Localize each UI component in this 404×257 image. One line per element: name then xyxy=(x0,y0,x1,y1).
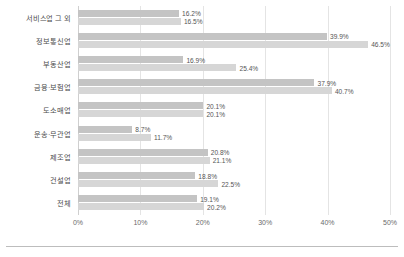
bar-row: 도소매업20.1%20.1% xyxy=(78,99,390,122)
bar-value-label: 40.7% xyxy=(335,87,354,94)
bar-series-1: 20.1% xyxy=(78,102,203,109)
bar-value-label: 19.1% xyxy=(200,195,219,202)
bar-series-1: 19.1% xyxy=(78,195,197,202)
gridline-50% xyxy=(390,6,391,215)
bar-series-2: 20.1% xyxy=(78,110,203,117)
x-tick-label: 40% xyxy=(321,219,335,226)
bar-row: 부동산업16.9%25.4% xyxy=(78,52,390,75)
bar-row: 운송·무관업8.7%11.7% xyxy=(78,122,390,145)
bar-row: 금융·보험업37.9%40.7% xyxy=(78,76,390,99)
bar-series-2: 25.4% xyxy=(78,64,236,71)
category-label: 금융·보험업 xyxy=(34,82,71,92)
category-label: 전체 xyxy=(57,198,71,208)
bar-series-2: 21.1% xyxy=(78,157,210,164)
bar-rows: 서비스업 그 외16.2%16.5%정보통신업39.9%46.5%부동산업16.… xyxy=(78,6,390,215)
category-label: 정보통신업 xyxy=(36,36,71,46)
x-tick-label: 0% xyxy=(73,219,83,226)
bar-row: 정보통신업39.9%46.5% xyxy=(78,29,390,52)
bar-row: 서비스업 그 외16.2%16.5% xyxy=(78,6,390,29)
bar-value-label: 20.1% xyxy=(206,102,225,109)
bar-value-label: 16.9% xyxy=(186,56,205,63)
bar-value-label: 11.7% xyxy=(154,134,172,141)
x-tick-label: 50% xyxy=(383,219,397,226)
bar-series-1: 16.2% xyxy=(78,10,179,17)
x-tick-label: 20% xyxy=(196,219,210,226)
bar-series-1: 37.9% xyxy=(78,79,314,86)
bar-series-2: 22.5% xyxy=(78,180,218,187)
bar-value-label: 25.4% xyxy=(239,64,258,71)
bar-chart: 서비스업 그 외16.2%16.5%정보통신업39.9%46.5%부동산업16.… xyxy=(0,0,404,257)
bar-value-label: 21.1% xyxy=(213,157,232,164)
bar-value-label: 39.9% xyxy=(330,33,349,40)
bar-row: 제조업20.8%21.1% xyxy=(78,145,390,168)
x-tick-label: 30% xyxy=(258,219,272,226)
bar-series-1: 16.9% xyxy=(78,56,183,63)
bar-series-2: 11.7% xyxy=(78,134,151,141)
bar-series-1: 18.8% xyxy=(78,172,195,179)
bar-value-label: 20.8% xyxy=(211,149,230,156)
bar-series-2: 40.7% xyxy=(78,87,332,94)
plot-area: 서비스업 그 외16.2%16.5%정보통신업39.9%46.5%부동산업16.… xyxy=(78,6,390,215)
category-label: 도소매업 xyxy=(43,105,71,115)
bottom-divider xyxy=(6,246,398,247)
bar-row: 전체19.1%20.2% xyxy=(78,192,390,215)
bar-value-label: 8.7% xyxy=(135,126,150,133)
bar-value-label: 20.2% xyxy=(207,203,226,210)
bar-value-label: 16.2% xyxy=(182,10,201,17)
bar-value-label: 46.5% xyxy=(371,41,390,48)
category-label: 부동산업 xyxy=(43,59,71,69)
category-label: 제조업 xyxy=(50,152,71,162)
x-tick-label: 10% xyxy=(133,219,147,226)
bar-value-label: 20.1% xyxy=(206,110,225,117)
category-label: 운송·무관업 xyxy=(34,129,71,139)
x-axis: 0%10%20%30%40%50% xyxy=(78,219,390,233)
bar-series-1: 39.9% xyxy=(78,33,327,40)
bar-series-2: 46.5% xyxy=(78,41,368,48)
bar-series-2: 20.2% xyxy=(78,203,204,210)
category-label: 건설업 xyxy=(50,175,71,185)
bar-value-label: 18.8% xyxy=(198,172,217,179)
bar-row: 건설업18.8%22.5% xyxy=(78,169,390,192)
bar-series-2: 16.5% xyxy=(78,18,181,25)
bar-series-1: 8.7% xyxy=(78,126,132,133)
bar-value-label: 37.9% xyxy=(317,79,336,86)
bar-series-1: 20.8% xyxy=(78,149,208,156)
bar-value-label: 22.5% xyxy=(221,180,240,187)
category-label: 서비스업 그 외 xyxy=(26,13,71,23)
bar-value-label: 16.5% xyxy=(184,18,203,25)
